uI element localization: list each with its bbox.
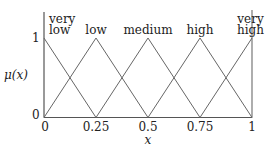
set-label-high: high — [187, 25, 214, 36]
x-axis-label: x — [145, 134, 152, 146]
series-low — [44, 38, 148, 118]
y-axis-label: μ(x) — [4, 69, 28, 81]
set-label-medium: medium — [123, 25, 172, 36]
y-tick-0: 0 — [32, 109, 40, 121]
set-label-very-high: very high — [237, 14, 264, 36]
x-tick-0.5: 0.5 — [138, 121, 157, 133]
x-tick-1: 1 — [248, 121, 256, 133]
series-high — [148, 38, 252, 118]
x-tick-0: 0 — [41, 121, 49, 133]
x-tick-0.25: 0.25 — [83, 121, 110, 133]
x-tick-0.75: 0.75 — [187, 121, 214, 133]
y-tick-1: 1 — [32, 32, 40, 44]
membership-series — [44, 38, 252, 118]
set-label-line2: low — [49, 25, 75, 36]
set-label-very-low: very low — [49, 14, 75, 36]
series-medium — [96, 38, 200, 118]
set-label-low: low — [85, 25, 106, 36]
set-label-line2: high — [237, 25, 264, 36]
